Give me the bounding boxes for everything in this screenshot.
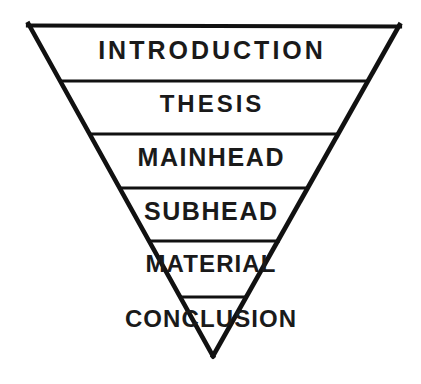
pyramid-outline-group [28, 24, 400, 356]
pyramid-divider-group [60, 81, 368, 297]
pyramid-outline-graphic [0, 0, 421, 384]
pyramid-left-edge [29, 24, 214, 356]
inverted-pyramid-diagram: INTRODUCTION THESIS MAINHEAD SUBHEAD MAT… [0, 0, 421, 384]
pyramid-top-edge [28, 26, 400, 27]
pyramid-right-edge [213, 25, 400, 356]
